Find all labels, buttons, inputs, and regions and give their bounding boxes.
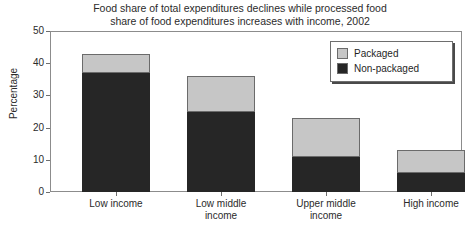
x-tick-mark-3	[431, 192, 432, 196]
legend-swatch-packaged-icon	[337, 48, 348, 59]
y-tick-label-40: 40	[20, 58, 44, 68]
y-tick-mark-0	[46, 192, 50, 193]
y-tick-label-10: 10	[20, 155, 44, 165]
y-tick-mark-50	[46, 31, 50, 32]
legend-label-non-packaged: Non-packaged	[354, 63, 419, 74]
bottom-cropped-caption	[8, 233, 468, 238]
bar-segment-packaged-1[interactable]	[187, 76, 255, 111]
legend-swatch-non-packaged-icon	[337, 63, 348, 74]
x-axis-label-low-middle-income: Low middle income	[166, 198, 276, 221]
chart-legend[interactable]: Packaged Non-packaged	[330, 41, 453, 82]
bar-segment-packaged-2[interactable]	[292, 118, 360, 157]
x-axis-label-low-income: Low income	[61, 198, 171, 210]
bar-segment-packaged-0[interactable]	[82, 54, 150, 73]
y-tick-label-50: 50	[20, 26, 44, 36]
bar-segment-nonpackaged-0[interactable]	[82, 73, 150, 192]
legend-item-non-packaged[interactable]: Non-packaged	[337, 61, 446, 76]
bar-group-low-income[interactable]	[82, 31, 150, 192]
x-tick-mark-1	[221, 192, 222, 196]
bar-group-low-middle-income[interactable]	[187, 31, 255, 192]
bar-segment-packaged-3[interactable]	[397, 150, 465, 173]
x-tick-mark-2	[326, 192, 327, 196]
x-axis-label-high-income: High income	[376, 198, 474, 210]
y-tick-label-20: 20	[20, 123, 44, 133]
y-tick-mark-40	[46, 63, 50, 64]
bar-segment-nonpackaged-1[interactable]	[187, 112, 255, 193]
chart-title: Food share of total expenditures decline…	[60, 2, 420, 27]
legend-label-packaged: Packaged	[354, 48, 398, 59]
y-tick-mark-30	[46, 95, 50, 96]
y-tick-label-30: 30	[20, 90, 44, 100]
bar-segment-nonpackaged-2[interactable]	[292, 157, 360, 192]
x-tick-mark-0	[116, 192, 117, 196]
bar-segment-nonpackaged-3[interactable]	[397, 173, 465, 192]
legend-item-packaged[interactable]: Packaged	[337, 46, 446, 61]
chart-figure: Food share of total expenditures decline…	[0, 0, 474, 238]
x-axis-label-upper-middle-income: Upper middle income	[271, 198, 381, 221]
y-tick-mark-10	[46, 160, 50, 161]
y-tick-label-0: 0	[20, 187, 44, 197]
y-axis-title: Percentage	[8, 54, 19, 134]
y-tick-mark-20	[46, 128, 50, 129]
